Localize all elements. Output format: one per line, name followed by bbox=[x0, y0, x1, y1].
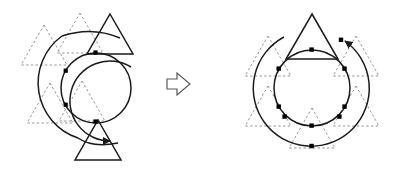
right-outer-markers bbox=[282, 38, 343, 149]
marker-inner-top bbox=[309, 47, 313, 51]
transformation-diagram bbox=[0, 0, 411, 172]
marker-inner-bottom bbox=[309, 123, 313, 127]
right-triangle-top bbox=[286, 14, 338, 59]
marker-inner-lower-right bbox=[342, 104, 346, 108]
transition-arrow bbox=[167, 73, 190, 95]
dashed-triangle-upper-left bbox=[245, 36, 291, 76]
marker-inner-upper-right bbox=[342, 66, 346, 70]
marker-outer-bottom bbox=[309, 144, 313, 148]
marker-outer-upper-right bbox=[339, 38, 343, 42]
marker-outer-lower-right bbox=[337, 114, 341, 118]
marker-inner-upper-left bbox=[277, 66, 281, 70]
marker-outer-lower-left bbox=[282, 114, 286, 118]
diagram-canvas bbox=[0, 0, 411, 172]
dashed-triangle-upper-mid bbox=[57, 13, 103, 53]
right-outer-arc bbox=[253, 37, 369, 146]
left-outer-arc-connector-top bbox=[62, 31, 120, 38]
dashed-triangle-lower-left bbox=[245, 86, 291, 126]
dashed-triangle-lower-right bbox=[333, 86, 379, 126]
marker-inner-bottom bbox=[93, 119, 97, 123]
left-panel bbox=[21, 13, 133, 160]
left-outer-arc bbox=[70, 61, 131, 141]
dashed-triangle-bottom bbox=[289, 108, 335, 148]
marker-inner-top bbox=[93, 50, 97, 54]
left-dashed-triangles bbox=[21, 13, 105, 123]
dashed-triangle-lower-mid bbox=[59, 81, 105, 121]
marker-inner-lower-left bbox=[64, 103, 68, 107]
right-panel bbox=[245, 14, 379, 148]
marker-inner-upper-left bbox=[64, 69, 68, 73]
left-markers bbox=[64, 50, 98, 123]
right-arrow-outline-icon bbox=[167, 73, 190, 95]
marker-inner-lower-left bbox=[277, 104, 281, 108]
